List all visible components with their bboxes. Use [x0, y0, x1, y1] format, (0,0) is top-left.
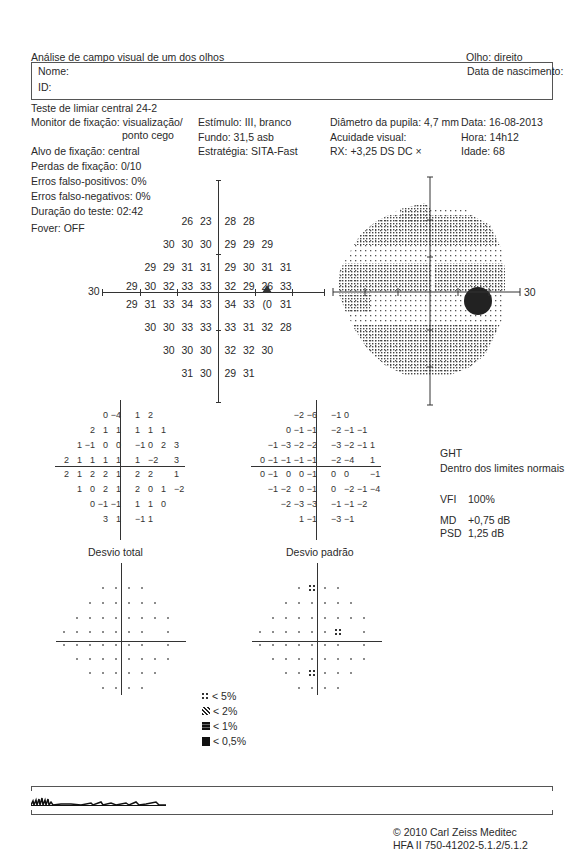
patient-box: Nome: ID: Data de nascimento:	[31, 62, 553, 100]
threshold-value: 33	[198, 321, 214, 333]
deviation-value: −1	[277, 455, 291, 466]
deviation-value: 2	[94, 484, 108, 495]
fovea-status: Fover: OFF	[31, 222, 85, 234]
normal-point-icon	[115, 644, 117, 646]
deviation-value: −3	[331, 514, 345, 525]
normal-point-icon	[76, 617, 78, 619]
normal-point-icon	[154, 672, 156, 674]
deviation-value: 2	[135, 469, 149, 480]
normal-point-icon	[324, 602, 326, 604]
test-name: Teste de limiar central 24-2	[31, 102, 157, 114]
threshold-value: 29	[222, 238, 238, 250]
normal-point-icon	[324, 587, 326, 589]
deviation-value: −2	[174, 484, 188, 495]
normal-point-icon	[102, 631, 104, 633]
normal-point-icon	[337, 644, 339, 646]
name-field-label: Nome:	[38, 65, 69, 77]
normal-point-icon	[76, 658, 78, 660]
fixation-losses: Perdas de fixação: 0/10	[31, 160, 141, 172]
threshold-value: 30	[142, 321, 158, 333]
p05-icon	[202, 737, 210, 746]
psd-value: 1,25 dB	[468, 527, 504, 539]
threshold-value: 34	[179, 298, 195, 310]
threshold-horizontal-axis	[102, 292, 324, 293]
normal-point-icon	[337, 587, 339, 589]
deviation-value: 0	[94, 440, 108, 451]
normal-point-icon	[285, 631, 287, 633]
deviation-value: −1	[303, 469, 317, 480]
deviation-value: 2	[94, 469, 108, 480]
deviation-value: 1	[135, 410, 149, 421]
normal-point-icon	[115, 587, 117, 589]
threshold-value: 33	[198, 280, 214, 292]
axis-tick	[324, 289, 325, 296]
threshold-value: 31	[259, 261, 275, 273]
normal-point-icon	[115, 672, 117, 674]
threshold-value: 23	[198, 215, 214, 227]
deviation-value: 1	[161, 425, 175, 436]
p5-icon	[309, 585, 315, 591]
deviation-value: 1	[107, 469, 121, 480]
threshold-value: 28	[222, 215, 238, 227]
deviation-value: 1	[107, 455, 121, 466]
normal-point-icon	[311, 658, 313, 660]
threshold-value: (0	[259, 298, 275, 310]
threshold-value: 34	[222, 298, 238, 310]
threshold-value: 28	[241, 215, 257, 227]
normal-point-icon	[154, 617, 156, 619]
threshold-value: 29	[161, 261, 177, 273]
normal-point-icon	[363, 631, 365, 633]
deviation-value: −2	[148, 455, 162, 466]
deviation-value: 2	[55, 469, 69, 480]
deviation-value: 2	[148, 469, 162, 480]
psd-label: PSD	[440, 527, 462, 539]
deviation-value: 1	[107, 484, 121, 495]
test-duration: Duração do teste: 02:42	[31, 205, 143, 217]
threshold-value: 33	[161, 298, 177, 310]
normal-point-icon	[141, 658, 143, 660]
threshold-value: 31	[241, 321, 257, 333]
normal-point-icon	[128, 602, 130, 604]
threshold-value: 30	[161, 238, 177, 250]
normal-point-icon	[298, 602, 300, 604]
patient-age: Idade: 68	[461, 145, 505, 157]
deviation-value: 0	[290, 469, 304, 480]
normal-point-icon	[128, 617, 130, 619]
deviation-value: 0	[251, 469, 265, 480]
vfi-label: VFI	[440, 493, 456, 505]
deviation-value: −1	[94, 499, 108, 510]
deviation-value: −3	[277, 440, 291, 451]
deviation-value: −2	[344, 440, 358, 451]
deviation-value: 0	[161, 499, 175, 510]
normal-point-icon	[259, 644, 261, 646]
normal-point-icon	[102, 644, 104, 646]
deviation-value: −3	[303, 499, 317, 510]
normal-point-icon	[76, 644, 78, 646]
normal-point-icon	[167, 658, 169, 660]
deviation-value: 3	[174, 440, 188, 451]
deviation-value: 1	[94, 455, 108, 466]
threshold-value: 29	[124, 298, 140, 310]
deviation-horizontal-axis	[251, 466, 381, 467]
legend-label: < 1%	[213, 720, 237, 732]
deviation-value: 1	[370, 440, 384, 451]
deviation-value: −4	[370, 484, 384, 495]
threshold-value: 29	[241, 280, 257, 292]
deviation-value: 1	[107, 425, 121, 436]
threshold-value: 31	[198, 261, 214, 273]
normal-point-icon	[128, 631, 130, 633]
normal-point-icon	[337, 602, 339, 604]
deviation-value: −2	[357, 499, 371, 510]
legend-p5: < 5%	[202, 690, 236, 702]
axis-tick	[177, 289, 178, 296]
deviation-value: 0	[344, 469, 358, 480]
normal-point-icon	[337, 658, 339, 660]
deviation-value: 0	[94, 410, 108, 421]
normal-point-icon	[115, 687, 117, 689]
deviation-value: −1	[331, 499, 345, 510]
deviation-value: 1	[174, 469, 188, 480]
threshold-value: 29	[241, 238, 257, 250]
normal-point-icon	[272, 644, 274, 646]
md-label: MD	[440, 514, 456, 526]
threshold-value: 30	[259, 344, 275, 356]
